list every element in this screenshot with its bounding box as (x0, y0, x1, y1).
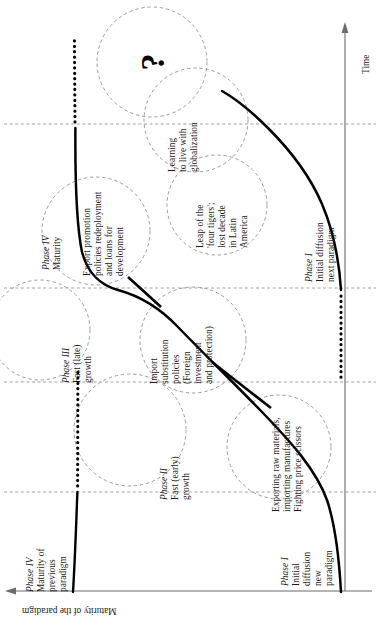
import-substitution-line-3: policies (172, 354, 182, 384)
diagram-canvas: ? Time Maturity of the paradigm Phase IV… (0, 0, 379, 631)
phase-3-late-line-2: growth (84, 356, 94, 383)
phase-1-new-line-3: new (314, 570, 324, 586)
phase-3-late-line-1: Fast (late) (73, 344, 83, 383)
x-axis-arrowhead (342, 22, 349, 33)
learning-globalization-line-3: globalization (190, 122, 200, 172)
phase-2-early-line-2: growth (182, 473, 192, 500)
leader-line-import-substitution (128, 277, 161, 307)
leap-four-tigers-line-1: Leap of the (196, 205, 206, 248)
phase-3-late-title: Phase III (62, 348, 72, 383)
phase-4-maturity-title: Phase IV (42, 235, 52, 270)
gridline-group (4, 124, 376, 492)
import-substitution-line-2: substitution (161, 339, 171, 384)
export-promotion-line-1: Export promotion (83, 208, 93, 276)
export-promotion-line-2: policies redeployment (94, 192, 104, 276)
phase-1-new-line-2: diffusion (303, 552, 313, 586)
export-promotion-line-4: development (116, 227, 126, 276)
phase-4-previous-line-1: Maturity of (37, 548, 47, 592)
leap-four-tigers-line-5: America (240, 215, 250, 248)
import-substitution-line-5: investment (194, 342, 204, 384)
learning-globalization-line-2: to live with (179, 128, 189, 172)
exporting-raw-materials-line-2: importing manufactures (283, 421, 293, 512)
phase-1-next-line-2: next paradigm (327, 227, 337, 282)
diagram-vector-layer (0, 0, 379, 631)
phase-1-next-title: Phase I (305, 253, 315, 282)
axes-group (5, 22, 372, 594)
export-promotion-line-3: and loans for (105, 226, 115, 276)
question-mark-annotation: ? (134, 42, 174, 82)
phase-4-maturity-line-1: Maturity (53, 237, 63, 270)
y-axis-maturity-label: Maturity of the paradigm (22, 606, 117, 616)
exporting-raw-materials-line-3: Fighting price scissors (294, 426, 304, 512)
phase-4-previous-line-3: paradigm (59, 556, 69, 592)
leap-four-tigers-line-2: 'four tigers'; (207, 202, 217, 248)
phase-4-previous-line-2: previous (48, 559, 58, 592)
curve-current-paradigm-dotted (74, 36, 75, 122)
phase-2-early-title: Phase II (160, 468, 170, 500)
exporting-raw-materials-line-1: Exporting raw materials, (272, 417, 282, 512)
phase-1-new-title: Phase I (281, 557, 291, 586)
learning-globalization-line-1: Learning (168, 138, 178, 172)
phase-4-previous-title: Phase IV (26, 557, 36, 592)
y-axis-arrowhead (5, 588, 16, 595)
phase-2-early-line-1: Fast (early) (171, 456, 181, 500)
leap-four-tigers-line-4: in Latin (229, 218, 239, 248)
phase-1-next-line-1: Initial diffusion (316, 222, 326, 282)
phase-1-new-line-1: Initial (292, 563, 302, 586)
import-substitution-line-4: (Foreign (183, 351, 193, 384)
x-axis-time-label: Time (361, 55, 371, 74)
leap-four-tigers-line-3: lost decade (218, 205, 228, 248)
phase-1-new-line-4: paradigm (325, 550, 335, 586)
curve-previous-paradigm (73, 492, 77, 592)
import-substitution-line-1: Import (150, 358, 160, 384)
import-substitution-line-6: and protection) (205, 326, 215, 384)
